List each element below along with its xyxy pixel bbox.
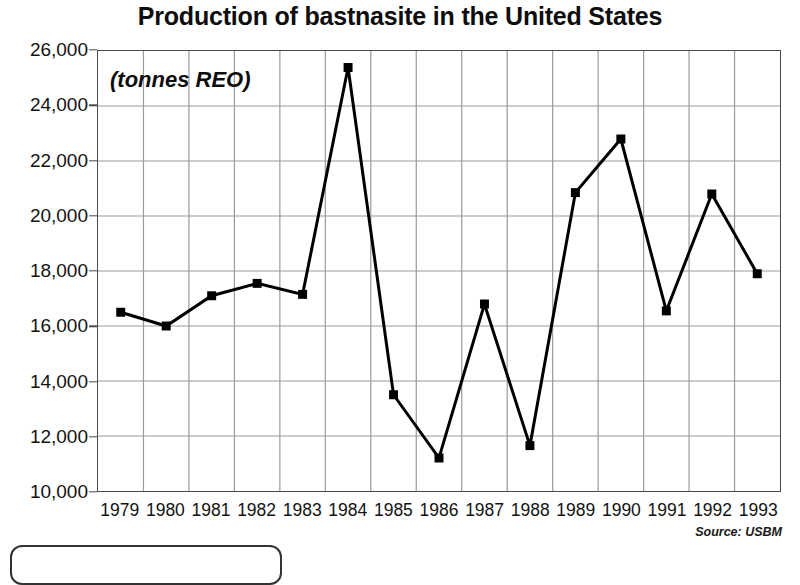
x-tick-label: 1986 [420,500,459,521]
x-tick-label: 1988 [511,500,550,521]
y-tick-mark [89,436,97,437]
x-tick-label: 1983 [283,500,322,521]
x-tick-label: 1984 [328,500,367,521]
y-tick-mark [89,381,97,382]
y-tick-label: 24,000 [0,94,88,116]
x-tick-label: 1982 [237,500,276,521]
y-tick-label: 26,000 [0,39,88,61]
y-tick-label: 22,000 [0,150,88,172]
y-tick-label: 14,000 [0,371,88,393]
y-tick-label: 12,000 [0,426,88,448]
x-tick-label: 1993 [739,500,778,521]
source-note: Source: USBM [695,525,782,539]
y-tick-mark [89,160,97,161]
y-tick-mark [89,105,97,106]
y-tick-label: 10,000 [0,481,88,503]
x-tick-label: 1989 [556,500,595,521]
x-tick-label: 1979 [100,500,139,521]
x-tick-label: 1990 [602,500,641,521]
y-tick-label: 20,000 [0,205,88,227]
y-tick-label: 18,000 [0,260,88,282]
y-tick-mark [89,215,97,216]
y-tick-label: 16,000 [0,315,88,337]
x-tick-label: 1992 [693,500,732,521]
y-tick-mark [89,326,97,327]
x-tick-label: 1980 [146,500,185,521]
y-tick-mark [89,49,97,50]
x-tick-label: 1987 [465,500,504,521]
x-tick-label: 1991 [648,500,687,521]
bottom-caption-box [10,545,282,585]
x-tick-label: 1981 [192,500,231,521]
units-annotation: (tonnes REO) [110,67,251,93]
y-tick-mark [89,270,97,271]
x-tick-label: 1985 [374,500,413,521]
y-tick-mark [89,491,97,492]
